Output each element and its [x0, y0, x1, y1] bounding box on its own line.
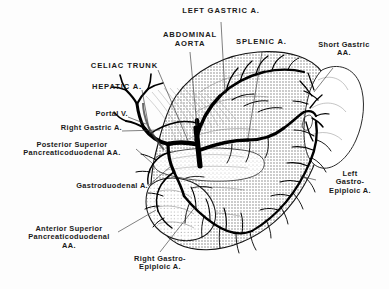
label-hepatic-artery: HEPATIC A.	[62, 83, 142, 92]
anatomical-figure: LEFT GASTRIC A. ABDOMINAL AORTA SPLENIC …	[0, 0, 389, 289]
label-left-gastroepiploic-artery: Left Gastro- Epiploic A.	[316, 170, 384, 195]
label-right-gastric-artery: Right Gastric A.	[32, 124, 122, 132]
label-short-gastric-arteries: Short Gastric AA.	[302, 41, 386, 58]
label-gastroduodenal-artery: Gastroduodenal A.	[28, 182, 148, 190]
label-abdominal-aorta: ABDOMINAL AORTA	[142, 31, 238, 48]
label-posterior-superior-pancreaticoduodenal: Posterior Superior Pancreaticoduodenal A…	[6, 141, 138, 158]
label-portal-vein: Portal V.	[58, 110, 128, 118]
label-right-gastroepiploic-artery: Right Gastro- Epiploic A.	[104, 255, 216, 272]
label-left-gastric-artery: LEFT GASTRIC A.	[166, 7, 276, 16]
label-celiac-trunk: CELIAC TRUNK	[58, 62, 158, 71]
label-anterior-superior-pancreaticoduodenal: Anterior Superior Pancreaticoduodenal AA…	[14, 225, 124, 250]
